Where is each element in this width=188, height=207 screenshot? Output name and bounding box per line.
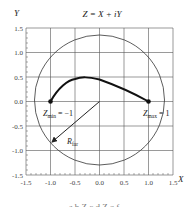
svg-text:-0.5: -0.5 [12, 123, 24, 131]
zmin-label: Zmin = −1 [43, 109, 73, 119]
zmin-point [48, 99, 53, 104]
svg-text:0.5: 0.5 [14, 74, 23, 82]
figure-caption-cropped: a b Z c d Z e f [0, 200, 188, 207]
zmax-point [146, 99, 151, 104]
svg-text:-1.0: -1.0 [45, 179, 57, 187]
svg-text:1.0: 1.0 [144, 179, 153, 187]
svg-text:1.5: 1.5 [14, 25, 23, 33]
svg-text:0.5: 0.5 [120, 179, 129, 187]
rfar-arrow [52, 102, 100, 143]
svg-text:1.0: 1.0 [14, 49, 23, 57]
svg-text:0.0: 0.0 [95, 179, 104, 187]
zmax-label: Zmax = 1 [143, 109, 169, 119]
chart-title: Z = X + iY [82, 9, 122, 19]
svg-text:0.0: 0.0 [14, 98, 23, 106]
complex-plane-chart: 1.5 1.0 0.5 0.0 -0.5 -1.0 -1.5 -1.5 -1.0… [0, 0, 188, 207]
x-tick-labels: -1.5 -1.0 -0.5 0.0 0.5 1.0 1.5 [20, 179, 177, 187]
svg-text:-1.5: -1.5 [20, 179, 32, 187]
svg-text:1.5: 1.5 [169, 179, 178, 187]
x-axis-label: X [177, 174, 184, 184]
y-tick-labels: 1.5 1.0 0.5 0.0 -0.5 -1.0 -1.5 [12, 25, 24, 180]
svg-text:-0.5: -0.5 [69, 179, 81, 187]
y-axis-label: Y [14, 8, 20, 18]
rfar-label: Rfar [66, 137, 78, 147]
svg-text:-1.0: -1.0 [12, 147, 24, 155]
